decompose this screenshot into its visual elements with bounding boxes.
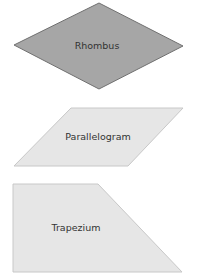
trapezium-shape-group: Trapezium: [13, 184, 182, 272]
parallelogram-shape-group: Parallelogram: [14, 108, 183, 166]
shapes-diagram: Rhombus Parallelogram Trapezium: [0, 0, 202, 275]
trapezium-label: Trapezium: [51, 222, 101, 233]
rhombus-label: Rhombus: [75, 40, 120, 51]
rhombus-shape-group: Rhombus: [14, 3, 183, 89]
parallelogram-label: Parallelogram: [65, 131, 130, 142]
